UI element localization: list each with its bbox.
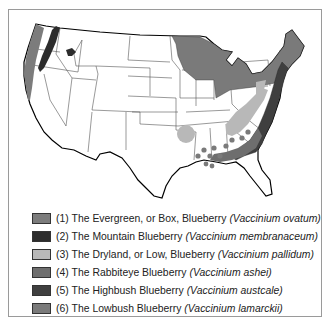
us-map [0,0,328,205]
legend-scientific: (Vaccinium austcale) [187,285,283,296]
legend-item-dryland: (3) The Dryland, or Low, Blueberry(Vacci… [32,245,322,263]
legend-common: The Highbush Blueberry [72,285,184,296]
legend-scientific: (Vaccinium ovatum) [229,213,320,224]
legend-scientific: (Vaccinium lamarckii) [184,303,282,314]
legend-item-mountain: (2) The Mountain Blueberry(Vaccinium mem… [32,227,322,245]
swatch-lowbush [32,303,51,314]
legend-item-lowbush: (6) The Lowbush Blueberry(Vaccinium lama… [32,299,322,317]
legend-number: (2) [56,231,69,242]
swatch-evergreen [32,213,51,224]
range-dryland-ozark [177,125,195,143]
legend-number: (3) [56,249,69,260]
legend-scientific: (Vaccinium pallidum) [218,249,314,260]
legend-common: The Dryland, or Low, Blueberry [72,249,215,260]
legend-number: (6) [56,303,69,314]
legend-common: The Evergreen, or Box, Blueberry [72,213,227,224]
legend-scientific: (Vaccinium ashei) [190,267,272,278]
legend-scientific: (Vaccinium membranaceum) [186,231,318,242]
legend-number: (1) [56,213,69,224]
legend-number: (5) [56,285,69,296]
legend-item-evergreen: (1) The Evergreen, or Box, Blueberry(Vac… [32,209,322,227]
legend: (1) The Evergreen, or Box, Blueberry(Vac… [32,209,322,317]
swatch-rabbiteye [32,267,51,278]
legend-common: The Rabbiteye Blueberry [72,267,187,278]
us-outline [24,24,304,198]
legend-item-highbush: (5) The Highbush Blueberry(Vaccinium aus… [32,281,322,299]
swatch-highbush [32,285,51,296]
legend-number: (4) [56,267,69,278]
swatch-mountain [32,231,51,242]
legend-common: The Mountain Blueberry [72,231,183,242]
swatch-dryland [32,249,51,260]
legend-common: The Lowbush Blueberry [72,303,182,314]
legend-item-rabbiteye: (4) The Rabbiteye Blueberry(Vaccinium as… [32,263,322,281]
